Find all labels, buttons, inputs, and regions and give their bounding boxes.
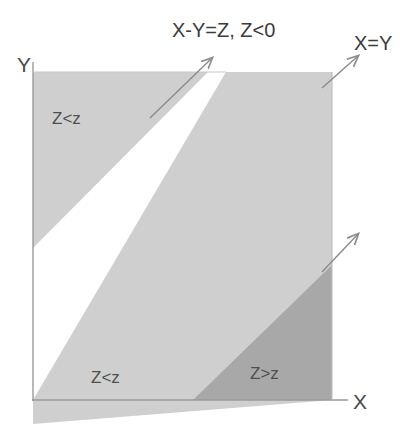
region-label-upper-left: Z<z: [52, 109, 81, 128]
label-x-minus-y-equation: X-Y=Z, Z<0: [172, 19, 275, 41]
axis-label-x: X: [353, 390, 367, 413]
region-label-lower-right: Z>z: [250, 364, 279, 383]
diagram-canvas: X-Y=Z, Z<0 X=Y Y X Z<z Z<z Z>z: [0, 0, 417, 439]
axis-label-y: Y: [17, 53, 31, 76]
label-x-equals-y: X=Y: [354, 32, 392, 54]
diagram-svg: X-Y=Z, Z<0 X=Y Y X Z<z Z<z Z>z: [0, 0, 417, 439]
region-label-lower-band: Z<z: [91, 368, 120, 387]
